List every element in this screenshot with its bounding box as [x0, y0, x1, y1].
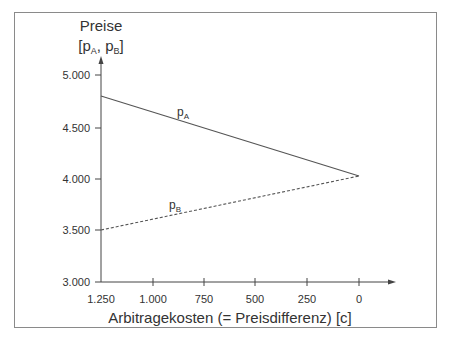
x-tick-label: 0 [356, 293, 362, 305]
y-axis-unit: [pA, pB] [78, 37, 123, 56]
chart-canvas: Preise [pA, pB] 5.000 4.500 4.000 3.500 … [0, 0, 450, 344]
series-pB-label: pB [169, 198, 181, 214]
series-pA-label: pA [177, 105, 190, 121]
y-ticks [95, 75, 101, 230]
series-pB-line [101, 176, 359, 230]
series-pA-line [101, 96, 359, 176]
y-tick-label: 3.000 [62, 276, 90, 288]
y-tick-label: 4.000 [62, 173, 90, 185]
x-tick-label: 750 [195, 293, 213, 305]
x-axis-arrow-icon [388, 280, 396, 285]
y-tick-label: 4.500 [62, 122, 90, 134]
y-tick-label: 3.500 [62, 224, 90, 236]
x-tick-label: 1.250 [87, 293, 115, 305]
y-axis-title: Preise [80, 17, 123, 34]
x-tick-label: 1.000 [139, 293, 167, 305]
x-tick-label: 500 [246, 293, 264, 305]
y-axis-arrow-icon [99, 56, 104, 64]
y-tick-label: 5.000 [62, 69, 90, 81]
x-axis-title: Arbitragekosten (= Preisdifferenz) [c] [108, 309, 352, 326]
x-tick-label: 250 [298, 293, 316, 305]
